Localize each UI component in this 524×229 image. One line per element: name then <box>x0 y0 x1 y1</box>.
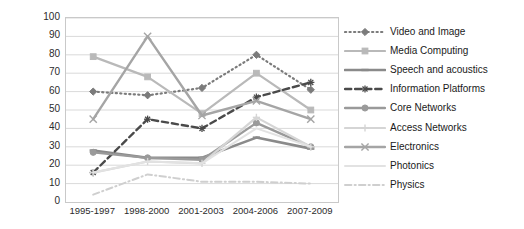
y-axis-tick: 30 <box>26 141 60 151</box>
y-axis-tick: 20 <box>26 159 60 169</box>
legend-item[interactable]: Electronics <box>344 137 524 156</box>
y-axis-tick: 80 <box>26 49 60 59</box>
series-physics <box>93 174 311 194</box>
legend-item[interactable]: Core Networks <box>344 99 524 118</box>
plot-area <box>65 17 339 203</box>
legend-item[interactable]: Information Platforms <box>344 80 524 99</box>
y-axis-tick-labels: 1009080706050403020100 <box>26 10 60 206</box>
legend-swatch-video-and-image <box>344 25 386 39</box>
legend-label: Access Networks <box>390 122 467 134</box>
legend-item[interactable]: Video and Image <box>344 22 524 41</box>
legend-item[interactable]: Physics <box>344 176 524 195</box>
legend-item[interactable]: Photonics <box>344 156 524 175</box>
chart-container: Average number of publications 100908070… <box>0 0 524 229</box>
legend-label: Photonics <box>390 160 434 172</box>
legend-item[interactable]: Media Computing <box>344 41 524 60</box>
legend-label: Electronics <box>390 141 439 153</box>
y-axis-tick: 100 <box>26 12 60 22</box>
legend-swatch-photonics <box>344 159 386 173</box>
chart-legend: Video and ImageMedia ComputingSpeech and… <box>344 22 524 208</box>
legend-swatch-electronics <box>344 140 386 154</box>
y-axis-tick: 60 <box>26 86 60 96</box>
x-axis-tick: 2001-2003 <box>170 205 232 217</box>
y-axis-tick: 50 <box>26 104 60 114</box>
legend-item[interactable]: Access Networks <box>344 118 524 137</box>
legend-label: Speech and acoustics <box>390 64 488 76</box>
y-axis-tick: 90 <box>26 30 60 40</box>
legend-label: Media Computing <box>390 45 468 57</box>
x-axis-tick: 1995-1997 <box>61 205 123 217</box>
legend-swatch-access-networks <box>344 121 386 135</box>
x-axis-tick: 2004-2006 <box>224 205 286 217</box>
legend-swatch-core-networks <box>344 101 386 115</box>
y-axis-tick: 70 <box>26 67 60 77</box>
legend-label: Information Platforms <box>390 83 485 95</box>
plot-svg <box>66 18 338 202</box>
y-axis-tick: 10 <box>26 178 60 188</box>
x-axis-tick: 1998-2000 <box>116 205 178 217</box>
legend-swatch-media-computing <box>344 44 386 58</box>
legend-swatch-information-platforms <box>344 82 386 96</box>
y-axis-tick: 40 <box>26 122 60 132</box>
legend-item[interactable]: Speech and acoustics <box>344 60 524 79</box>
series-electronics <box>90 33 315 123</box>
legend-swatch-physics <box>344 178 386 192</box>
legend-label: Physics <box>390 179 424 191</box>
legend-label: Video and Image <box>390 26 465 38</box>
x-axis-tick-labels: 1995-19971998-20002001-20032004-20062007… <box>65 205 338 221</box>
y-axis-tick: 0 <box>26 196 60 206</box>
legend-swatch-speech-and-acoustics <box>344 63 386 77</box>
legend-label: Core Networks <box>390 102 456 114</box>
x-axis-tick: 2007-2009 <box>279 205 341 217</box>
